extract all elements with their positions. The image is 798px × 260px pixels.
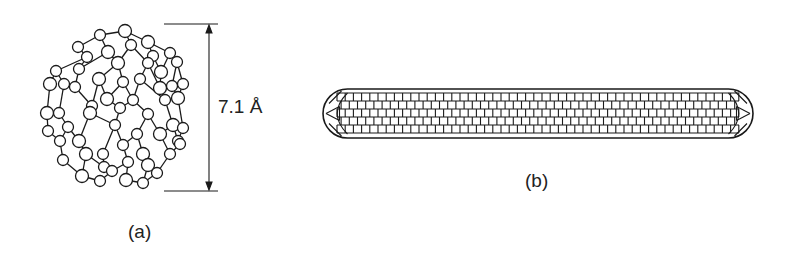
figure-canvas <box>0 0 798 260</box>
nanotube-drawing <box>323 89 753 138</box>
arrowhead-up-icon <box>206 25 212 33</box>
panel-label-b: (b) <box>525 170 548 192</box>
arrowhead-down-icon <box>206 182 212 190</box>
dimension-label: 7.1 Å <box>218 96 262 118</box>
panel-label-a: (a) <box>128 221 151 243</box>
c60-fullerene-drawing <box>41 25 189 189</box>
